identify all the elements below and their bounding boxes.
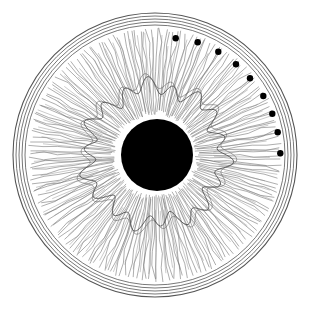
iris-fiber: [31, 142, 116, 151]
iris-fiber: [201, 159, 282, 166]
iris-fiber: [158, 198, 163, 282]
iris-fiber: [89, 190, 133, 260]
iris-fiber: [164, 199, 181, 279]
marker-dot: [215, 49, 221, 55]
iris-fiber: [170, 221, 181, 269]
pupil: [121, 119, 193, 191]
iris-fiber: [169, 194, 197, 272]
iris-fiber: [144, 199, 151, 278]
iris-fiber: [162, 195, 174, 279]
iris-fiber: [199, 151, 280, 153]
iris-fiber: [168, 197, 193, 275]
iris-fiber: [53, 85, 119, 131]
iris-fiber: [77, 205, 114, 249]
iris-fiber: [196, 107, 270, 138]
iris-fiber: [70, 186, 126, 248]
iris-fiber: [145, 33, 150, 93]
iris-fiber: [105, 197, 136, 271]
marker-dot: [260, 93, 266, 99]
iris-fiber: [202, 90, 248, 122]
iris-illustration: [0, 0, 312, 310]
iris-fiber: [66, 184, 126, 244]
marker-dot: [247, 75, 253, 81]
iris-fiber: [43, 144, 89, 149]
iris-fiber: [195, 129, 277, 147]
iris-drawing-canvas: [0, 0, 312, 310]
iris-fiber: [176, 195, 211, 268]
iris-fiber: [193, 180, 260, 222]
iris-fiber: [36, 152, 82, 153]
marker-dot: [275, 129, 281, 135]
iris-fiber: [184, 183, 243, 243]
iris-fiber: [64, 86, 103, 116]
marker-dot: [195, 39, 201, 45]
marker-dot: [173, 35, 179, 41]
iris-fiber: [155, 28, 158, 114]
iris-fiber: [224, 171, 265, 181]
iris-fiber: [33, 161, 114, 175]
iris-fiber: [59, 182, 124, 238]
iris-fiber: [195, 157, 280, 160]
iris-fiber: [42, 137, 86, 144]
iris-fiber: [105, 49, 129, 99]
marker-dot: [233, 61, 239, 67]
iris-fiber: [90, 194, 131, 263]
iris-fiber: [104, 43, 138, 119]
marker-dot: [277, 150, 283, 156]
iris-fiber: [188, 82, 255, 132]
marker-dot: [269, 111, 275, 117]
iris-fiber: [132, 31, 146, 111]
iris-fiber: [43, 187, 93, 213]
iris-fiber: [79, 189, 130, 253]
